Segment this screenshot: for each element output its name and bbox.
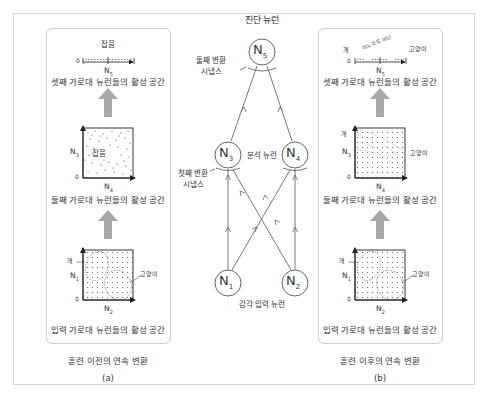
neuron-n1-letter: N — [219, 273, 229, 288]
second-synapse-label-1: 둘째 변환 — [196, 57, 226, 65]
a-third-axis-sub: 5 — [110, 71, 113, 77]
neuron-n2-letter: N — [286, 273, 296, 288]
a-second-y-sub: 3 — [76, 152, 79, 158]
neuron-n2-sub: 2 — [296, 283, 300, 291]
a-dog-label: 개 — [67, 258, 73, 264]
neuron-n3-letter: N — [219, 145, 229, 160]
b-tag: (b) — [374, 374, 386, 383]
neuron-n5-label: N5 — [253, 43, 267, 60]
b-third-axis: N5 — [376, 67, 385, 77]
a-cat-label: 고양이 — [140, 271, 158, 277]
b-second-zero: 0 — [347, 174, 351, 180]
a-third-layer-axis — [83, 57, 134, 64]
a-second-y-axis: N3 — [70, 148, 79, 158]
network-connections — [228, 66, 295, 270]
first-synapse-label-1: 첫째 변환 — [178, 170, 208, 178]
b-input-y-axis: N1 — [342, 272, 351, 282]
a-input-layer-title: 입력 가로대 뉴런들의 활성 공간 — [51, 326, 166, 335]
a-noise-label-center: 잡음 — [92, 150, 106, 158]
a-input-zero: 0 — [75, 296, 79, 302]
b-second-layer-plot — [355, 126, 407, 178]
first-synapse-label-2: 시냅스 — [183, 181, 204, 189]
a-second-layer-plot — [83, 126, 135, 178]
b-input-layer-title: 입력 가로대 뉴런들의 활성 공간 — [323, 326, 438, 335]
a-noise-label-top: 잡음 — [101, 41, 115, 49]
b-third-zero: 0 — [347, 58, 351, 64]
a-second-zero: 0 — [75, 174, 79, 180]
b-third-layer-title: 셋째 가로대 뉴런들의 활성 공간 — [323, 78, 438, 87]
b-input-zero: 0 — [347, 296, 351, 302]
diagnostic-neuron-title: 진단 뉴런 — [245, 16, 280, 25]
b-input-x-sub: 2 — [382, 309, 385, 315]
b-second-dog-label: 개 — [341, 131, 347, 137]
b-input-y-sub: 1 — [348, 276, 351, 282]
a-input-y-axis: N1 — [70, 272, 79, 282]
a-input-x-sub: 2 — [110, 309, 113, 315]
neuron-n1-label: N1 — [219, 274, 233, 291]
a-third-zero: 0 — [76, 58, 80, 64]
b-input-layer-plot — [349, 248, 413, 304]
neuron-n3-label: N3 — [219, 146, 233, 163]
b-cat-label: 고양이 — [412, 271, 430, 277]
a-caption: 훈련 이전의 연속 변환 — [68, 357, 148, 366]
neuron-n4-letter: N — [286, 145, 296, 160]
a-third-layer-title: 셋째 가로대 뉴런들의 활성 공간 — [51, 78, 166, 87]
neuron-n2-label: N2 — [286, 274, 300, 291]
b-second-layer-title: 둘째 가로대 뉴런들의 활성 공간 — [323, 196, 438, 205]
a-input-y-sub: 1 — [76, 276, 79, 282]
a-input-layer-plot — [77, 248, 141, 304]
b-third-dog-label: 개 — [343, 47, 349, 53]
b-third-layer-axis — [355, 57, 406, 64]
b-dog-label: 개 — [339, 258, 345, 264]
b-second-y-sub: 3 — [348, 152, 351, 158]
b-second-x-axis: N4 — [376, 183, 385, 193]
a-second-x-axis: N4 — [104, 183, 113, 193]
b-second-y-axis: N3 — [342, 148, 351, 158]
sensory-input-label: 감각 입력 뉴런 — [239, 301, 286, 309]
analysis-neuron-label: 분석 뉴런 — [247, 152, 277, 160]
neuron-n5-letter: N — [253, 42, 263, 57]
b-second-cat-label: 고양이 — [410, 150, 428, 156]
a-input-x-axis: N2 — [104, 305, 113, 315]
neuron-n1-sub: 1 — [229, 283, 233, 291]
b-third-cat-label: 고양이 — [409, 46, 427, 52]
a-second-layer-title: 둘째 가로대 뉴런들의 활성 공간 — [51, 196, 166, 205]
b-input-x-axis: N2 — [376, 305, 385, 315]
a-third-axis: N5 — [104, 67, 113, 77]
neuron-n5-sub: 5 — [263, 52, 267, 60]
neuron-n4-label: N4 — [286, 146, 300, 163]
a-second-x-sub: 4 — [110, 187, 113, 193]
b-caption: 훈련 이후의 연속 변환 — [340, 357, 420, 366]
b-third-axis-sub: 5 — [382, 71, 385, 77]
a-tag: (a) — [102, 374, 114, 383]
second-synapse-label-2: 시냅스 — [201, 68, 222, 76]
neuron-n4-sub: 4 — [296, 155, 300, 163]
b-second-x-sub: 4 — [382, 187, 385, 193]
neuron-n3-sub: 3 — [229, 155, 233, 163]
